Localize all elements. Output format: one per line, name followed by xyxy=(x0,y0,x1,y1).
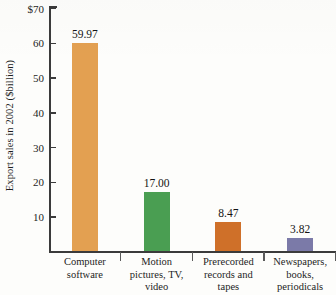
y-axis-title: Export sales in 2002 ($billion) xyxy=(0,0,20,250)
bar-value-label: 8.47 xyxy=(218,207,238,219)
bar: 3.82 xyxy=(287,238,313,251)
bar-value-label: 3.82 xyxy=(290,223,310,235)
y-axis-tick-mark: 10 xyxy=(49,216,56,217)
y-axis-tick-mark: $70 xyxy=(49,8,56,9)
y-axis-title-text: Export sales in 2002 ($billion) xyxy=(5,59,16,190)
bar: 17.00 xyxy=(144,192,170,251)
x-axis-category-line: tapes xyxy=(193,281,265,294)
y-axis-tick-mark: 40 xyxy=(49,112,56,113)
x-axis-category-line: Motion xyxy=(121,256,193,269)
y-axis-tick-label: 20 xyxy=(33,176,49,188)
bar-value-label: 17.00 xyxy=(144,177,170,189)
y-axis-tick-label: 30 xyxy=(33,141,49,153)
y-axis-tick-mark: 30 xyxy=(49,147,56,148)
bar-value-label: 59.97 xyxy=(72,28,98,40)
y-axis-tick-mark: 60 xyxy=(49,43,56,44)
bar: 59.97 xyxy=(72,43,98,251)
y-axis-tick-label: $70 xyxy=(28,2,50,14)
y-axis-tick-label: 40 xyxy=(33,107,49,119)
bar-chart: Export sales in 2002 ($billion) $7060504… xyxy=(0,0,336,295)
plot-area: $70605040302010 59.9717.008.473.82 xyxy=(49,6,336,252)
x-axis-labels: ComputersoftwareMotionpictures, TV,video… xyxy=(49,256,336,295)
x-axis-category-line: Computer xyxy=(49,256,121,269)
x-axis-category-line: software xyxy=(49,269,121,282)
y-axis-tick-label: 60 xyxy=(33,37,49,49)
x-axis-category-label: Computersoftware xyxy=(49,256,121,281)
x-axis-category-line: pictures, TV, xyxy=(121,269,193,282)
x-axis-category-line: video xyxy=(121,281,193,294)
bar: 8.47 xyxy=(215,222,241,251)
x-axis-category-label: Prerecordedrecords andtapes xyxy=(193,256,265,294)
x-axis-category-label: Newspapers,books,periodicals xyxy=(264,256,336,294)
x-axis-category-label: Motionpictures, TV,video xyxy=(121,256,193,294)
y-axis-tick-label: 10 xyxy=(33,211,49,223)
x-axis-category-line: books, xyxy=(264,269,336,282)
x-axis-category-line: records and xyxy=(193,269,265,282)
x-axis-category-line: periodicals xyxy=(264,281,336,294)
y-axis-tick-label: 50 xyxy=(33,72,49,84)
x-axis-category-line: Newspapers, xyxy=(264,256,336,269)
y-axis-tick-mark: 50 xyxy=(49,77,56,78)
y-axis-tick-mark: 20 xyxy=(49,182,56,183)
x-axis-category-line: Prerecorded xyxy=(193,256,265,269)
